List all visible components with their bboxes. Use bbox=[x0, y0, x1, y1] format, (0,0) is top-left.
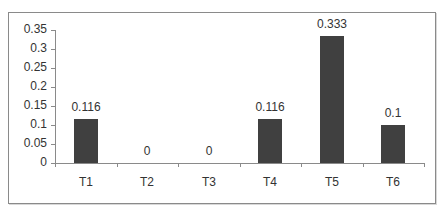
bar-chart: 00.050.10.150.20.250.30.350.116T10T20T30… bbox=[0, 0, 445, 217]
bar-t6 bbox=[381, 125, 405, 163]
x-tick bbox=[424, 163, 425, 167]
y-tick bbox=[51, 30, 55, 31]
data-label: 0.116 bbox=[61, 100, 111, 114]
y-tick bbox=[51, 144, 55, 145]
data-label: 0.333 bbox=[307, 17, 357, 31]
y-tick bbox=[51, 87, 55, 88]
y-tick-label: 0.15 bbox=[7, 98, 47, 112]
x-tick-label: T6 bbox=[373, 175, 413, 189]
data-label: 0.116 bbox=[245, 100, 295, 114]
data-label: 0 bbox=[122, 144, 172, 158]
y-tick bbox=[51, 125, 55, 126]
y-axis bbox=[55, 30, 56, 164]
y-tick bbox=[51, 106, 55, 107]
data-label: 0 bbox=[184, 144, 234, 158]
x-tick bbox=[240, 163, 241, 167]
y-tick-label: 0.1 bbox=[7, 117, 47, 131]
x-tick-label: T3 bbox=[189, 175, 229, 189]
x-tick bbox=[55, 163, 56, 167]
y-tick-label: 0 bbox=[7, 155, 47, 169]
x-tick bbox=[363, 163, 364, 167]
y-tick bbox=[51, 68, 55, 69]
y-tick bbox=[51, 49, 55, 50]
x-tick-label: T4 bbox=[250, 175, 290, 189]
data-label: 0.1 bbox=[368, 106, 418, 120]
bar-t4 bbox=[258, 119, 282, 163]
y-tick-label: 0.05 bbox=[7, 136, 47, 150]
y-tick-label: 0.3 bbox=[7, 41, 47, 55]
y-tick-label: 0.25 bbox=[7, 60, 47, 74]
x-tick-label: T1 bbox=[66, 175, 106, 189]
bar-t5 bbox=[320, 36, 344, 163]
y-tick-label: 0.35 bbox=[7, 22, 47, 36]
x-tick-label: T5 bbox=[312, 175, 352, 189]
bar-t1 bbox=[74, 119, 98, 163]
y-tick-label: 0.2 bbox=[7, 79, 47, 93]
x-tick-label: T2 bbox=[127, 175, 167, 189]
x-tick bbox=[301, 163, 302, 167]
x-tick bbox=[178, 163, 179, 167]
x-tick bbox=[117, 163, 118, 167]
